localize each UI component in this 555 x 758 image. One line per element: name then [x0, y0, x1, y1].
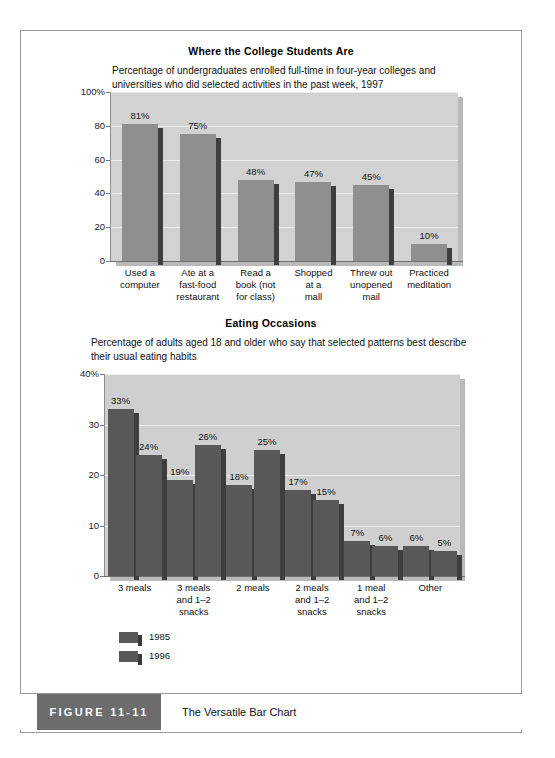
bar-value-label: 26%: [187, 431, 229, 442]
bar: [403, 546, 429, 576]
figure-caption-bar: FIGURE 11-11 The Versatile Bar Chart: [20, 693, 522, 730]
bar: [254, 450, 280, 576]
x-category-line: and 1–2: [336, 594, 407, 606]
legend-label: 1985: [149, 631, 170, 642]
legend-item: 1985: [119, 631, 239, 645]
y-tick-label: 30: [57, 419, 99, 430]
bar: [195, 445, 221, 576]
gridline: [105, 425, 460, 426]
figure-frame: Where the College Students Are Percentag…: [20, 30, 522, 733]
bar: [285, 490, 311, 576]
bar: [372, 546, 398, 576]
bar: [108, 409, 134, 576]
bar-value-label: 24%: [128, 441, 170, 452]
y-tick-mark: [100, 526, 104, 527]
legend-label: 1996: [149, 650, 170, 661]
y-tick-mark: [100, 425, 104, 426]
legend-swatch: [119, 632, 138, 643]
figure-caption-text: The Versatile Bar Chart: [161, 694, 522, 730]
x-category-line: Other: [395, 582, 466, 594]
legend-swatch-shadow: [138, 635, 142, 646]
x-category-line: snacks: [336, 606, 407, 618]
bar: [167, 480, 193, 576]
x-category-line: snacks: [158, 606, 229, 618]
bar-value-label: 5%: [423, 537, 465, 548]
bar: [313, 500, 339, 576]
figure-number-tag: FIGURE 11-11: [37, 694, 161, 730]
x-category-label: Other: [395, 582, 466, 594]
chart2-plot: 010203040%33%24%3 meals19%26%3 mealsand …: [21, 31, 521, 731]
legend-swatch-shadow: [138, 654, 142, 665]
bar-value-label: 25%: [246, 436, 288, 447]
y-tick-label: 20: [57, 469, 99, 480]
bar: [226, 485, 252, 576]
bar: [344, 541, 370, 576]
y-tick-mark: [100, 374, 104, 375]
legend-item: 1996: [119, 650, 239, 664]
y-tick-label: 40%: [57, 368, 99, 379]
bar-side-shadow: [457, 555, 462, 580]
y-tick-mark: [100, 475, 104, 476]
legend-swatch: [119, 651, 138, 662]
gridline: [105, 374, 460, 375]
y-tick-label: 0: [57, 570, 99, 581]
bar: [136, 455, 162, 576]
bar: [431, 551, 457, 576]
bar-value-label: 15%: [305, 486, 347, 497]
y-tick-mark: [100, 576, 104, 577]
x-category-line: and 1–2: [158, 594, 229, 606]
bar-value-label: 33%: [100, 395, 142, 406]
y-tick-label: 10: [57, 520, 99, 531]
